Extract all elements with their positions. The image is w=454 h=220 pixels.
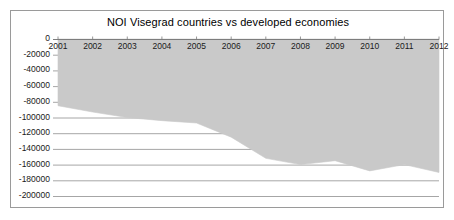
x-axis-tick-label: 2003	[110, 41, 144, 51]
x-axis-tick-label: 2001	[41, 41, 75, 51]
y-axis-tick-label: -160000	[2, 159, 50, 169]
x-axis-tick-label: 2007	[249, 41, 283, 51]
x-axis-tick-label: 2010	[353, 41, 387, 51]
x-axis-tick-label: 2009	[318, 41, 352, 51]
y-axis-tick-label: -80000	[2, 96, 50, 106]
x-axis-tick-label: 2005	[180, 41, 214, 51]
x-axis-tick-label: 2008	[283, 41, 317, 51]
x-axis-tick-label: 2002	[76, 41, 110, 51]
y-axis-tick-label: -40000	[2, 64, 50, 74]
x-axis-tick-label: 2004	[145, 41, 179, 51]
data-area-series	[58, 39, 439, 172]
x-axis-tick-label: 2012	[422, 41, 454, 51]
x-axis-tick-label: 2006	[214, 41, 248, 51]
y-axis-tick-label: -120000	[2, 127, 50, 137]
y-axis-tick-label: -60000	[2, 80, 50, 90]
area-fill	[58, 39, 439, 172]
y-axis-tick-label: -100000	[2, 112, 50, 122]
x-axis-tick-label: 2011	[387, 41, 421, 51]
chart-frame: NOI Visegrad countries vs developed econ…	[10, 10, 444, 208]
y-axis-tick-label: -200000	[2, 190, 50, 200]
y-axis-tick-label: -140000	[2, 143, 50, 153]
y-axis-tick-label: -180000	[2, 174, 50, 184]
plot-area: 0-20000-40000-60000-80000-100000-120000-…	[11, 11, 445, 209]
